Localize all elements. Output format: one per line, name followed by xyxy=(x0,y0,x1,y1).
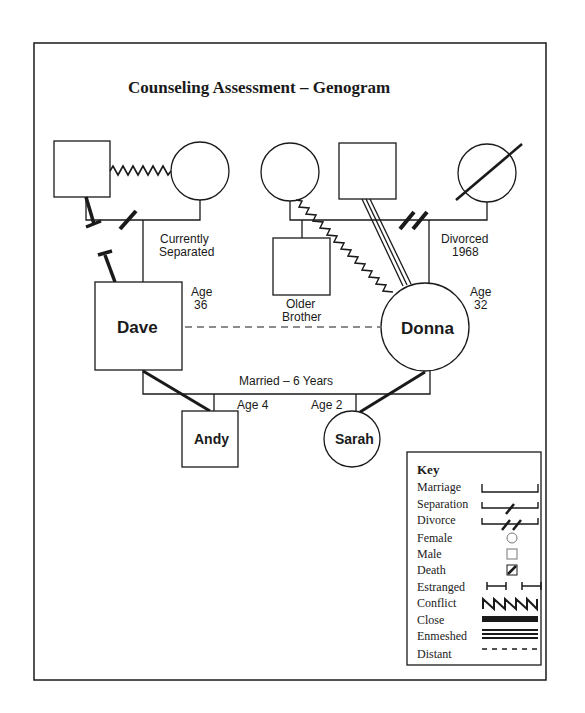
dave-age-label: Age xyxy=(191,285,213,299)
dave: Dave xyxy=(95,282,182,370)
female-circle-icon xyxy=(261,143,319,201)
legend-label-female: Female xyxy=(417,531,452,545)
sarah-age: Age 2 xyxy=(311,398,343,412)
donna-father xyxy=(339,143,396,199)
male-square-icon xyxy=(273,238,330,295)
donna-age-label: Age xyxy=(470,285,492,299)
sarah: Sarah xyxy=(324,411,380,467)
marriage-line-donna-parents xyxy=(290,201,487,220)
donna-stepmother-deceased xyxy=(456,144,522,202)
female-circle-icon xyxy=(171,142,229,200)
male-square-icon xyxy=(54,141,110,197)
genogram-page: Counseling Assessment – Genogram Current… xyxy=(0,0,585,713)
enmeshed-father-donna xyxy=(362,199,411,286)
legend-label-distant: Distant xyxy=(417,647,452,661)
dave-father xyxy=(54,141,110,197)
male-square-icon xyxy=(339,143,396,199)
close-line-donna-sarah xyxy=(360,372,425,412)
legend-label-close: Close xyxy=(417,613,444,627)
close-line-dave-andy xyxy=(143,371,210,411)
diagram-title: Counseling Assessment – Genogram xyxy=(128,78,390,97)
marriage-annotation: Married – 6 Years xyxy=(239,374,333,388)
legend-label-male: Male xyxy=(417,547,442,561)
legend-label-enmeshed: Enmeshed xyxy=(417,629,467,643)
legend-label-conflict: Conflict xyxy=(417,596,457,610)
andy-age: Age 4 xyxy=(237,398,269,412)
dave-parents-status-line2: Separated xyxy=(159,245,214,259)
donna-parents-status-line1: Divorced xyxy=(441,232,488,246)
legend-label-divorce: Divorce xyxy=(417,513,456,527)
estranged-father-dave xyxy=(86,197,115,282)
older-brother-label-line2: Brother xyxy=(282,310,321,324)
older-brother-label-line1: Older xyxy=(286,297,315,311)
dave-age-value: 36 xyxy=(194,298,208,312)
legend-key: Key Marriage Separation Divorce Female M… xyxy=(407,452,541,665)
legend-label-estranged: Estranged xyxy=(417,580,465,594)
donna: Donna xyxy=(381,283,469,371)
legend-label-marriage: Marriage xyxy=(417,480,461,494)
andy: Andy xyxy=(182,411,238,467)
legend-label-separation: Separation xyxy=(417,497,468,511)
dave-name: Dave xyxy=(117,318,158,337)
legend-label-death: Death xyxy=(417,563,446,577)
conflict-zigzag-dave-parents xyxy=(110,166,171,175)
donna-mother xyxy=(261,143,319,201)
older-brother xyxy=(273,238,330,295)
donna-name: Donna xyxy=(401,319,454,338)
donna-age-value: 32 xyxy=(474,298,488,312)
andy-name: Andy xyxy=(194,431,229,447)
close-symbol-icon xyxy=(482,616,538,622)
dave-mother xyxy=(171,142,229,200)
legend-heading: Key xyxy=(417,462,440,477)
sarah-name: Sarah xyxy=(335,431,374,447)
marriage-line-dave-parents xyxy=(86,197,200,220)
donna-parents-status-line2: 1968 xyxy=(452,245,479,259)
genogram-diagram: Counseling Assessment – Genogram Current… xyxy=(0,0,585,713)
dave-parents-status-line1: Currently xyxy=(160,232,209,246)
